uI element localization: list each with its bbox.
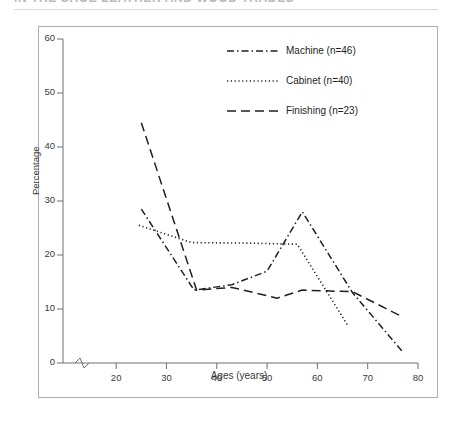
chart-axes — [63, 39, 418, 363]
y-tick-label: 40 — [33, 140, 55, 151]
x-tick-label: 20 — [102, 372, 130, 383]
legend-line-dash-dot — [227, 46, 279, 56]
x-tick-label: 30 — [152, 372, 180, 383]
legend-label: Finishing (n=23) — [286, 105, 358, 116]
y-axis-ticks — [57, 39, 63, 363]
header-divider — [14, 9, 438, 10]
x-axis-ticks — [116, 363, 418, 369]
legend-item-machine: Machine (n=46) — [227, 45, 356, 56]
y-tick-label: 50 — [33, 86, 55, 97]
figure-frame: Percentage Ages (years) Machine (n=46) C… — [38, 26, 438, 398]
y-axis-title: Percentage — [30, 146, 41, 195]
legend-item-finishing: Finishing (n=23) — [227, 105, 358, 116]
running-header: IN THE SHOE LEATHER AND WOOD TRADES — [0, 0, 453, 12]
x-tick-label: 60 — [303, 372, 331, 383]
x-tick-label: 50 — [253, 372, 281, 383]
legend-label: Cabinet (n=40) — [286, 75, 352, 86]
series-line-cabinet — [139, 225, 348, 325]
x-tick-label: 40 — [203, 372, 231, 383]
y-tick-label: 10 — [33, 302, 55, 313]
y-tick-label: 0 — [33, 356, 55, 367]
x-tick-label: 80 — [404, 372, 432, 383]
y-tick-label: 30 — [33, 194, 55, 205]
series-line-finishing — [141, 123, 403, 317]
x-tick-label: 70 — [354, 372, 382, 383]
data-series-layer — [139, 123, 403, 353]
y-tick-label: 20 — [33, 248, 55, 259]
series-line-machine — [141, 209, 403, 352]
legend-line-dashed — [227, 106, 279, 116]
legend-item-cabinet: Cabinet (n=40) — [227, 75, 352, 86]
running-header-text: IN THE SHOE LEATHER AND WOOD TRADES — [14, 0, 294, 5]
y-tick-label: 60 — [33, 32, 55, 43]
legend-line-dotted — [227, 76, 279, 86]
legend-label: Machine (n=46) — [286, 45, 356, 56]
